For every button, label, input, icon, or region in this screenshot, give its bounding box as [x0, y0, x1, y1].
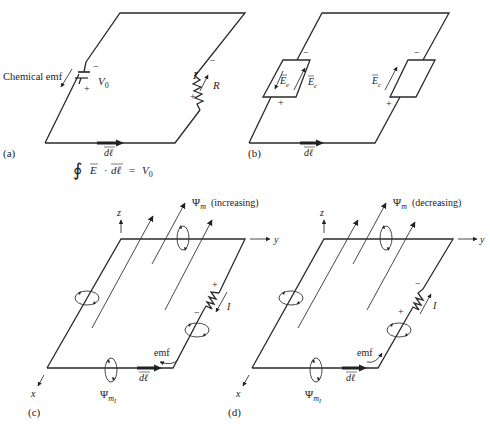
battery-plus: +	[84, 83, 90, 94]
flux-label-d: Ψm(decreasing)	[393, 196, 461, 211]
panel-c: z y x Ψm(increasing) ΨmI	[28, 196, 279, 419]
current-label-c: I	[226, 301, 231, 312]
battery-minus: −	[93, 61, 99, 72]
resistor-label: R	[212, 79, 220, 91]
flux-line	[367, 222, 415, 310]
load-box-right	[390, 60, 435, 97]
resistor-plus-d: +	[398, 306, 404, 317]
svg-text:z: z	[116, 207, 121, 218]
svg-text:z: z	[319, 207, 324, 218]
panel-d: z y x Ψm(decreasing) ΨmI	[228, 196, 485, 419]
resistor-icon-d	[409, 289, 423, 314]
induced-flux-loop-icon	[310, 358, 322, 382]
panel-label-b: (b)	[248, 147, 261, 160]
source-left-minus: −	[303, 47, 309, 58]
current-arrow-c	[216, 292, 227, 312]
svg-text:V0: V0	[142, 164, 153, 179]
circulation-icon	[177, 225, 189, 251]
current-label-d: I	[432, 300, 437, 311]
field-c-label-left: Ec	[307, 76, 318, 90]
chemical-emf-label: Chemical emf	[3, 71, 63, 82]
flux-line	[152, 203, 185, 264]
svg-text:x: x	[235, 388, 241, 399]
circulation-icon	[380, 225, 392, 251]
loop-wire-b	[249, 13, 449, 143]
electromagnetic-circuit-figure: − + V0 Chemical emf − + R I dℓ (a) ∮ E ·…	[0, 0, 490, 429]
flux-line	[92, 216, 153, 328]
current-label: I	[192, 69, 198, 81]
loop-wire-d	[252, 239, 453, 368]
x-axis-arrow	[38, 375, 44, 386]
emf-label-d: emf	[357, 347, 373, 358]
svg-text:E: E	[89, 164, 97, 176]
dl-label-b: dℓ	[304, 147, 313, 158]
current-arrow	[200, 75, 208, 91]
dl-label-c: dℓ	[139, 372, 148, 383]
x-axis-arrow-d	[243, 375, 249, 386]
resistor-minus-c: −	[194, 307, 200, 318]
load-minus: −	[414, 47, 420, 58]
chemical-emf-arrow	[61, 69, 72, 87]
svg-text:y: y	[479, 234, 485, 245]
svg-text:·: ·	[104, 164, 108, 176]
emf-label-c: emf	[154, 347, 170, 358]
battery-icon	[75, 62, 90, 84]
resistor-icon-c	[202, 292, 219, 313]
svg-text:∮: ∮	[73, 160, 82, 180]
panel-label-c: (c)	[28, 406, 41, 419]
source-left-plus: +	[278, 97, 284, 108]
flux-line	[353, 203, 386, 264]
dl-label: dℓ	[104, 147, 113, 158]
loop-wire-c	[47, 239, 245, 368]
source-box-left	[263, 60, 310, 97]
svg-text:y: y	[273, 234, 279, 245]
induced-flux-loop-icon	[105, 358, 117, 382]
resistor-plus-c: +	[212, 279, 218, 290]
flux-label-c: Ψm(increasing)	[192, 196, 259, 211]
panel-b: Ee Ec − + Ec − + dℓ (b)	[248, 13, 449, 160]
dl-arrowhead	[116, 140, 124, 147]
svg-text:=: =	[129, 164, 135, 176]
line-integral-equation: ∮ E · dℓ = V0	[73, 160, 153, 180]
svg-text:x: x	[30, 388, 36, 399]
induced-flux-label-d: ΨmI	[305, 388, 322, 404]
resistor-minus: −	[210, 55, 216, 66]
resistor-minus-d: −	[415, 278, 421, 289]
induced-flux-label-c: ΨmI	[100, 388, 117, 404]
field-c-label-right: Ec	[371, 75, 382, 89]
circulation-icon	[387, 323, 411, 337]
field-e-label: Ee	[279, 75, 289, 89]
svg-text:dℓ: dℓ	[111, 164, 122, 176]
panel-a: − + V0 Chemical emf − + R I dℓ (a) ∮ E ·…	[3, 13, 245, 180]
panel-label-a: (a)	[3, 147, 16, 160]
flux-line	[298, 220, 358, 328]
resistor-plus: +	[190, 91, 196, 102]
circulation-icon	[185, 323, 209, 337]
load-plus: +	[386, 98, 392, 109]
panel-label-d: (d)	[228, 406, 241, 419]
dl-label-d: dℓ	[346, 372, 355, 383]
voltage-label: V0	[98, 75, 109, 90]
